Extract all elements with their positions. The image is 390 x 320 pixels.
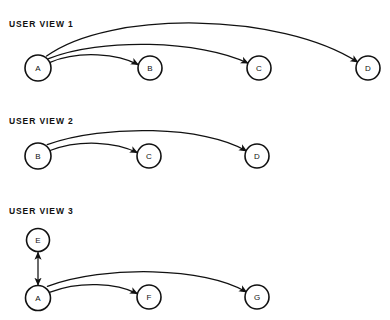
node-c: C: [137, 144, 161, 168]
section-user-view-1: USER VIEW 1 A B C D: [9, 19, 380, 81]
node-d: D: [356, 56, 380, 80]
node-a: A: [25, 55, 51, 81]
node-g: G: [245, 285, 269, 309]
node-label: A: [35, 64, 41, 73]
section-label-user-view-3: USER VIEW 3: [9, 206, 74, 216]
user-views-diagram: USER VIEW 1 A B C D: [0, 0, 390, 320]
node-label: C: [256, 64, 262, 73]
edge-a-to-f: [50, 285, 137, 294]
node-d: D: [245, 144, 269, 168]
node-label: D: [254, 152, 260, 161]
node-label: B: [147, 64, 152, 73]
node-label: F: [147, 293, 152, 302]
edge-a-to-b: [50, 55, 138, 65]
edge-a-to-d: [47, 23, 358, 62]
node-b: B: [25, 143, 51, 169]
node-label: D: [365, 64, 371, 73]
node-b: B: [138, 56, 162, 80]
node-label: C: [146, 152, 152, 161]
node-c: C: [247, 56, 271, 80]
node-label: A: [35, 294, 41, 303]
section-label-user-view-2: USER VIEW 2: [9, 116, 74, 126]
diagram-canvas: USER VIEW 1 A B C D: [0, 0, 390, 320]
node-label: B: [35, 152, 40, 161]
node-label: G: [254, 293, 260, 302]
node-label: E: [35, 236, 40, 245]
node-a: A: [26, 286, 51, 311]
node-e: E: [27, 229, 50, 252]
section-user-view-3: USER VIEW 3 E A F G: [9, 206, 269, 311]
section-user-view-2: USER VIEW 2 B C D: [9, 116, 269, 169]
section-label-user-view-1: USER VIEW 1: [9, 19, 74, 29]
node-f: F: [137, 285, 161, 309]
edges-user-view-1: [47, 23, 358, 65]
edge-b-to-c: [50, 143, 137, 152]
